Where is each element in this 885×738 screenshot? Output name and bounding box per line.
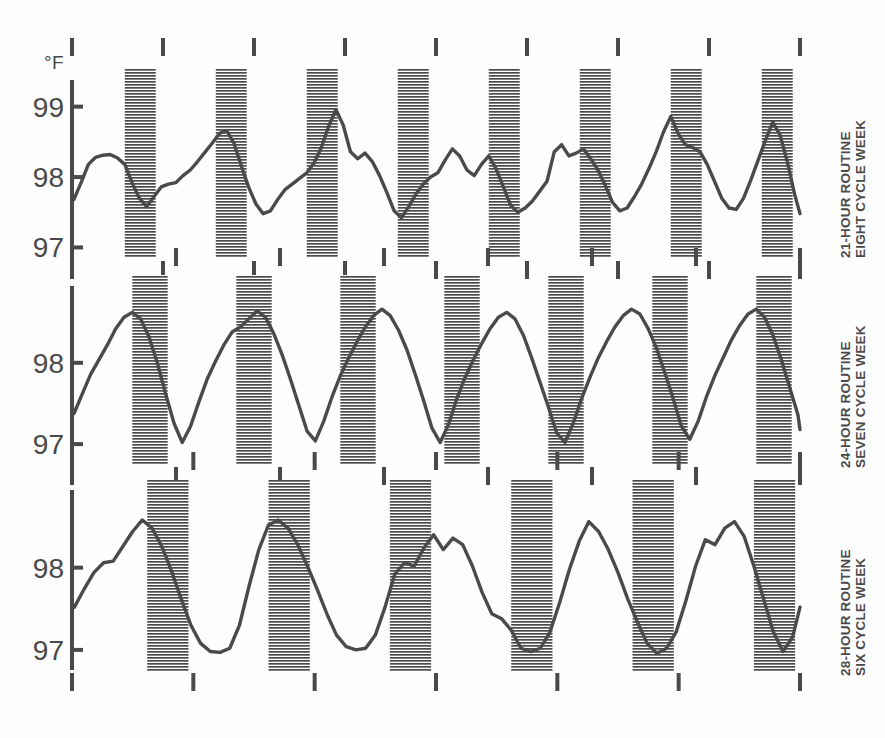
sleep-band — [652, 275, 687, 465]
temperature-rhythm-figure: °F 97989997989798 21-HOUR ROUTINE EIGHT … — [0, 0, 885, 738]
sleep-band — [307, 68, 338, 258]
panel-label-28-hour-line1: 28-HOUR ROUTINE — [838, 549, 853, 676]
sleep-band — [132, 275, 167, 465]
sleep-band — [671, 68, 702, 258]
sleep-band — [236, 275, 271, 465]
panel-label-21-hour-line1: 21-HOUR ROUTINE — [838, 131, 853, 258]
panel-label-24-hour: 24-HOUR ROUTINE SEVEN CYCLE WEEK — [838, 325, 868, 468]
chart-panel-21-hour: 979899 — [33, 38, 800, 279]
sleep-band — [444, 275, 479, 465]
temperature-curve — [74, 309, 800, 442]
y-axis-tick-label: 98 — [33, 553, 64, 584]
sleep-band — [269, 480, 310, 672]
panel-label-24-hour-line1: 24-HOUR ROUTINE — [838, 341, 853, 468]
chart-panel-28-hour: 9798 — [33, 452, 800, 691]
sleep-band — [756, 275, 791, 465]
y-axis-tick-label: 99 — [33, 92, 64, 123]
panel-label-21-hour-line2: EIGHT CYCLE WEEK — [853, 120, 868, 258]
sleep-band — [398, 68, 429, 258]
sleep-band — [390, 480, 431, 672]
sleep-band — [340, 275, 375, 465]
y-axis-tick-label: 97 — [33, 429, 64, 460]
panel-label-28-hour-line2: SIX CYCLE WEEK — [853, 549, 868, 676]
sleep-band — [125, 68, 156, 258]
panel-label-21-hour: 21-HOUR ROUTINE EIGHT CYCLE WEEK — [838, 120, 868, 258]
chart-panel-24-hour: 9798 — [33, 248, 800, 485]
panel-label-28-hour: 28-HOUR ROUTINE SIX CYCLE WEEK — [838, 549, 868, 676]
sleep-band — [147, 480, 188, 672]
panel-label-24-hour-line2: SEVEN CYCLE WEEK — [853, 325, 868, 468]
y-axis-tick-label: 98 — [33, 162, 64, 193]
plot-canvas: 97989997989798 — [0, 0, 885, 738]
y-axis-tick-label: 97 — [33, 232, 64, 263]
y-axis-tick-label: 97 — [33, 635, 64, 666]
y-axis-tick-label: 98 — [33, 348, 64, 379]
